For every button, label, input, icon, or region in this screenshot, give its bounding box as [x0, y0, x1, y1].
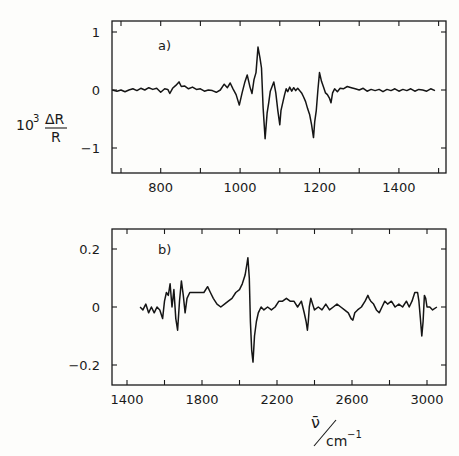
spectrum-line-a	[112, 47, 435, 139]
x-label-unit: cm	[326, 433, 347, 449]
y-axis-label: 10 3 ΔR R	[16, 111, 67, 145]
spectrum-line-b	[140, 258, 437, 362]
y-tick-label: 0	[92, 83, 100, 98]
x-tick-label: 1400	[110, 392, 143, 407]
y-axis-ticks-b: 0.20−0.2	[68, 242, 446, 373]
panel-label-a: a)	[158, 38, 171, 53]
panel-label-b: b)	[158, 242, 171, 257]
y-tick-label: −1	[81, 141, 100, 156]
x-label-symbol: ν̄	[311, 413, 320, 432]
spectra-figure: 800100012001400 10−1 a) 1400180022002600…	[0, 0, 459, 456]
x-axis-label: ν̄ cm −1	[311, 413, 362, 449]
y-tick-label: −0.2	[68, 358, 100, 373]
x-tick-label: 1400	[382, 180, 415, 195]
x-tick-label: 2200	[260, 392, 293, 407]
x-tick-label: 2600	[335, 392, 368, 407]
x-tick-label: 1000	[224, 180, 257, 195]
y-label-numerator: ΔR	[45, 111, 65, 127]
y-tick-label: 0.2	[79, 242, 100, 257]
x-tick-label: 800	[148, 180, 173, 195]
chart-panel-b: 14001800220026003000 0.20−0.2 b)	[68, 229, 446, 407]
y-tick-label: 1	[92, 25, 100, 40]
x-label-unit-exponent: −1	[347, 429, 362, 440]
x-tick-label: 1800	[185, 392, 218, 407]
x-tick-label: 1200	[303, 180, 336, 195]
y-label-prefix: 10	[16, 117, 34, 133]
y-label-denominator: R	[51, 129, 61, 145]
chart-panel-a: 800100012001400 10−1 a)	[81, 21, 446, 195]
x-tick-label: 3000	[410, 392, 443, 407]
y-label-exponent: 3	[33, 113, 39, 124]
y-tick-label: 0	[92, 300, 100, 315]
